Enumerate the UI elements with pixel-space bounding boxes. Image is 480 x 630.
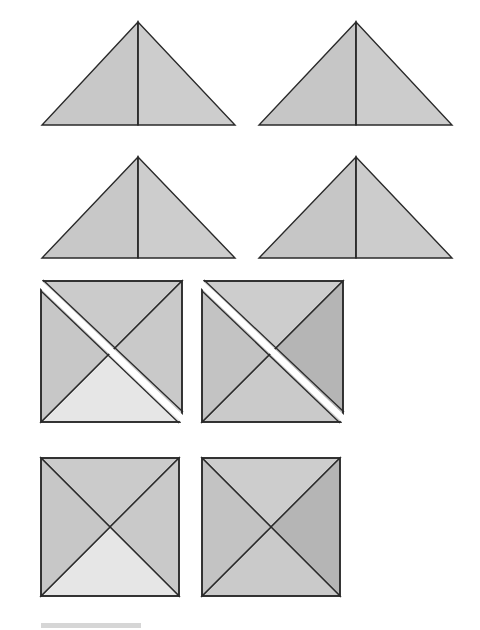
footer-bar: [41, 623, 141, 628]
triangle-middle-left-right-half: [138, 157, 235, 258]
triangle-top-right-left-half: [259, 22, 356, 125]
triangle-middle-right-right-half: [356, 157, 452, 258]
diagram-canvas: [0, 0, 480, 630]
triangle-top-left-right-half: [138, 22, 235, 125]
triangle-top-right-right-half: [356, 22, 452, 125]
triangle-middle-right-left-half: [259, 157, 356, 258]
triangle-middle-left-left-half: [42, 157, 138, 258]
triangle-top-left-left-half: [42, 22, 138, 125]
